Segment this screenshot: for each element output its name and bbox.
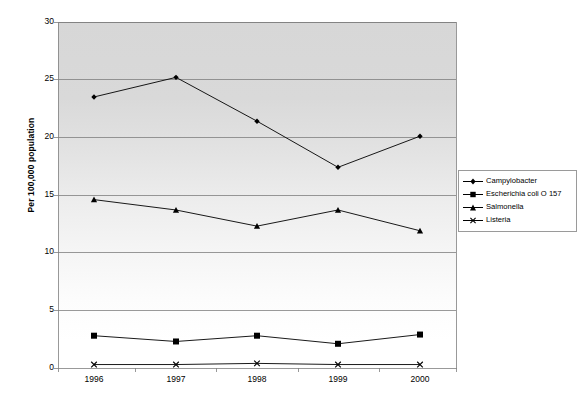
data-point <box>254 333 260 339</box>
data-point <box>335 165 340 170</box>
legend-item-listeria[interactable]: Listeria <box>462 214 572 226</box>
legend-item-ecoli[interactable]: Escherichia coli O 157 <box>462 188 572 200</box>
legend-marker-triangle-icon <box>462 202 484 213</box>
axis-lines <box>54 22 456 372</box>
data-point <box>417 133 422 138</box>
legend: Campylobacter Escherichia coli O 157 Sal… <box>458 170 577 232</box>
legend-marker-square-icon <box>462 189 484 200</box>
data-point <box>91 197 97 203</box>
data-point <box>254 118 259 123</box>
legend-label-listeria: Listeria <box>484 215 510 225</box>
legend-marker-diamond-icon <box>462 176 484 187</box>
chart-container: Per 100,000 population 30 25 20 15 10 5 … <box>0 0 584 412</box>
legend-item-salmonella[interactable]: Salmonella <box>462 201 572 213</box>
legend-item-campylobacter[interactable]: Campylobacter <box>462 175 572 187</box>
gridlines <box>58 22 456 310</box>
data-point <box>91 94 96 99</box>
series-listeria <box>91 361 423 368</box>
data-point <box>335 341 341 347</box>
legend-label-salmonella: Salmonella <box>484 202 524 212</box>
legend-marker-cross-icon <box>462 215 484 226</box>
data-point <box>335 207 341 213</box>
legend-label-campylobacter: Campylobacter <box>484 176 537 186</box>
data-point <box>91 333 97 339</box>
data-point <box>417 332 423 338</box>
data-point <box>173 75 178 80</box>
data-point <box>173 338 179 344</box>
series-escherichia-coli-o-157 <box>91 332 423 347</box>
legend-label-ecoli: Escherichia coli O 157 <box>484 189 562 199</box>
series-campylobacter <box>91 75 422 170</box>
series-salmonella <box>91 197 423 234</box>
data-series-layer <box>91 75 423 368</box>
